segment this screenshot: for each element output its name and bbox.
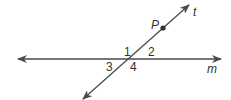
- angle-4-label: 4: [130, 60, 137, 74]
- line-t: [83, 5, 189, 99]
- angle-1-label: 1: [124, 45, 131, 59]
- angle-3-label: 3: [106, 60, 113, 74]
- line-m-label: m: [207, 62, 217, 76]
- point-p-dot: [160, 25, 165, 30]
- point-p-label: P: [151, 18, 159, 32]
- line-t-label: t: [193, 5, 197, 19]
- angle-2-label: 2: [148, 45, 155, 59]
- geometry-diagram: P t m 1 2 3 4: [0, 0, 231, 100]
